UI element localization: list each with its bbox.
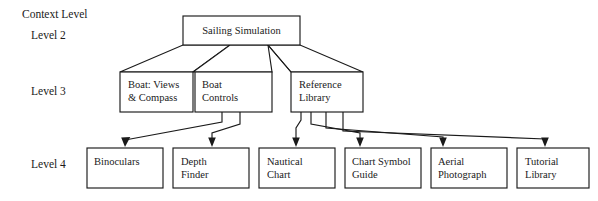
- arrowhead-depth-finder: [208, 138, 216, 147]
- node-label-nautical-chart-line1: Nautical: [267, 156, 303, 167]
- node-sailing-simulation[interactable]: Sailing Simulation: [183, 16, 300, 45]
- node-tutorial-library[interactable]: Tutorial Library: [517, 148, 589, 188]
- node-label-depth-finder-line2: Finder: [181, 169, 209, 180]
- hierarchy-diagram: Context Level Level 2 Level 3 Level 4 Sa…: [0, 0, 598, 201]
- funnel-root-to-reference-library: [268, 45, 363, 72]
- node-box-depth-finder[interactable]: [173, 148, 249, 188]
- node-label-chart-symbol-guide-line2: Guide: [352, 169, 378, 180]
- node-depth-finder[interactable]: Depth Finder: [173, 148, 249, 188]
- connector-reference-library-to-tutorial-library: [343, 112, 545, 140]
- level-label-level-4: Level 4: [31, 158, 66, 170]
- connector-reference-library-to-nautical-chart: [296, 112, 301, 140]
- node-label-tutorial-library-line1: Tutorial: [525, 156, 559, 167]
- node-box-tutorial-library[interactable]: [517, 148, 589, 188]
- root-to-level3-funnels: [120, 45, 363, 72]
- node-label-reference-library-line2: Library: [299, 92, 331, 103]
- node-label-binoculars-line1: Binoculars: [94, 156, 140, 167]
- arrowhead-binoculars: [121, 137, 130, 147]
- node-label-aerial-photograph-line1: Aerial: [438, 156, 464, 167]
- node-label-tutorial-library-line2: Library: [525, 169, 557, 180]
- level-label-context-level: Context Level: [22, 8, 87, 20]
- level4-node-group: Binoculars Depth Finder Nautical Chart C…: [87, 148, 589, 188]
- node-label-boat-views-compass-line2: & Compass: [128, 92, 177, 103]
- node-boat-controls[interactable]: Boat Controls: [195, 72, 272, 112]
- node-box-binoculars[interactable]: [87, 148, 163, 188]
- node-label-sailing-simulation: Sailing Simulation: [202, 25, 281, 36]
- connector-boat-controls-to-binoculars: [125, 112, 222, 140]
- level-label-level-2: Level 2: [31, 29, 66, 41]
- level3-to-level4-connectors: [121, 112, 549, 147]
- connector-boat-controls-to-depth-finder: [212, 112, 240, 140]
- level-label-group: Context Level Level 2 Level 3 Level 4: [22, 8, 87, 170]
- node-box-aerial-photograph[interactable]: [431, 148, 507, 188]
- level-label-level-3: Level 3: [31, 85, 66, 97]
- node-aerial-photograph[interactable]: Aerial Photograph: [431, 148, 507, 188]
- node-label-boat-controls-line1: Boat: [202, 79, 222, 90]
- node-reference-library[interactable]: Reference Library: [291, 72, 363, 112]
- node-chart-symbol-guide[interactable]: Chart Symbol Guide: [345, 148, 421, 188]
- node-label-boat-controls-line2: Controls: [202, 92, 238, 103]
- node-label-depth-finder-line1: Depth: [181, 156, 207, 167]
- arrowhead-chart-symbol-guide: [356, 138, 364, 147]
- arrowhead-tutorial-library: [541, 138, 549, 147]
- node-boat-views-compass[interactable]: Boat: Views & Compass: [120, 72, 193, 112]
- node-label-aerial-photograph-line2: Photograph: [438, 169, 487, 180]
- node-label-boat-views-compass-line1: Boat: Views: [128, 79, 179, 90]
- node-label-reference-library-line1: Reference: [299, 79, 342, 90]
- arrowhead-nautical-chart: [292, 138, 300, 147]
- connector-reference-library-to-chart-symbol-guide: [311, 112, 360, 140]
- node-label-nautical-chart-line2: Chart: [267, 169, 290, 180]
- arrowhead-aerial-photograph: [439, 138, 447, 147]
- node-box-nautical-chart[interactable]: [259, 148, 335, 188]
- node-binoculars[interactable]: Binoculars: [87, 148, 163, 188]
- node-box-chart-symbol-guide[interactable]: [345, 148, 421, 188]
- level3-node-group: Boat: Views & Compass Boat Controls Refe…: [120, 72, 363, 112]
- node-nautical-chart[interactable]: Nautical Chart: [259, 148, 335, 188]
- node-label-chart-symbol-guide-line1: Chart Symbol: [352, 156, 411, 167]
- diagram-canvas: Context Level Level 2 Level 3 Level 4 Sa…: [0, 0, 598, 201]
